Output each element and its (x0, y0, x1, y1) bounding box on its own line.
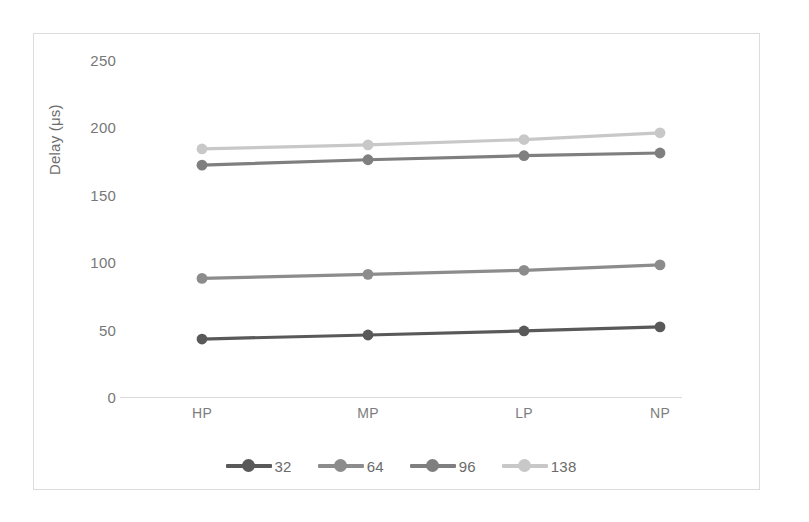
y-tick-0: 0 (60, 389, 116, 406)
y-tick-150: 150 (60, 187, 116, 204)
legend-label-96: 96 (459, 458, 476, 475)
x-tick-hp: HP (192, 405, 212, 421)
y-tick-250: 250 (60, 52, 116, 69)
legend-swatch-96-icon (410, 459, 456, 473)
x-axis-line (120, 397, 682, 398)
y-tick-50: 50 (60, 322, 116, 339)
legend-item-64[interactable]: 64 (318, 458, 384, 475)
legend-item-32[interactable]: 32 (226, 458, 292, 475)
x-tick-lp: LP (515, 405, 533, 421)
legend-label-32: 32 (275, 458, 292, 475)
legend-swatch-32-icon (226, 459, 272, 473)
legend-swatch-138-icon (502, 459, 548, 473)
legend-label-138: 138 (551, 458, 577, 475)
x-axis-tick-labels: HP MP LP NP (120, 405, 682, 431)
legend-marker-138 (518, 459, 531, 472)
legend-marker-96 (426, 459, 439, 472)
legend-label-64: 64 (367, 458, 384, 475)
legend-swatch-64-icon (318, 459, 364, 473)
y-tick-100: 100 (60, 254, 116, 271)
x-tick-np: NP (650, 405, 670, 421)
legend-item-96[interactable]: 96 (410, 458, 476, 475)
legend-marker-32 (242, 459, 255, 472)
legend-marker-64 (334, 459, 347, 472)
chart-legend: 32 64 96 138 (120, 452, 682, 480)
y-axis-tick-labels: 250 200 150 100 50 0 (60, 0, 116, 522)
y-tick-200: 200 (60, 119, 116, 136)
chart-figure: Delay (μs) 250 200 150 100 50 0 HP MP LP… (0, 0, 809, 522)
x-tick-mp: MP (357, 405, 379, 421)
legend-item-138[interactable]: 138 (502, 458, 577, 475)
